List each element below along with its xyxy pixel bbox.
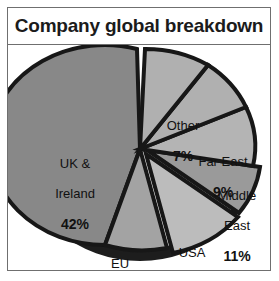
chart-screenshot: Company global breakdown (0, 0, 279, 281)
pie-chart-plot-area: UK & Ireland 42% Other 7% Far East 9% Mi… (8, 45, 270, 270)
page-title: Company global breakdown (8, 8, 270, 44)
pie-slices (8, 45, 260, 253)
pie-chart-svg (8, 45, 270, 270)
